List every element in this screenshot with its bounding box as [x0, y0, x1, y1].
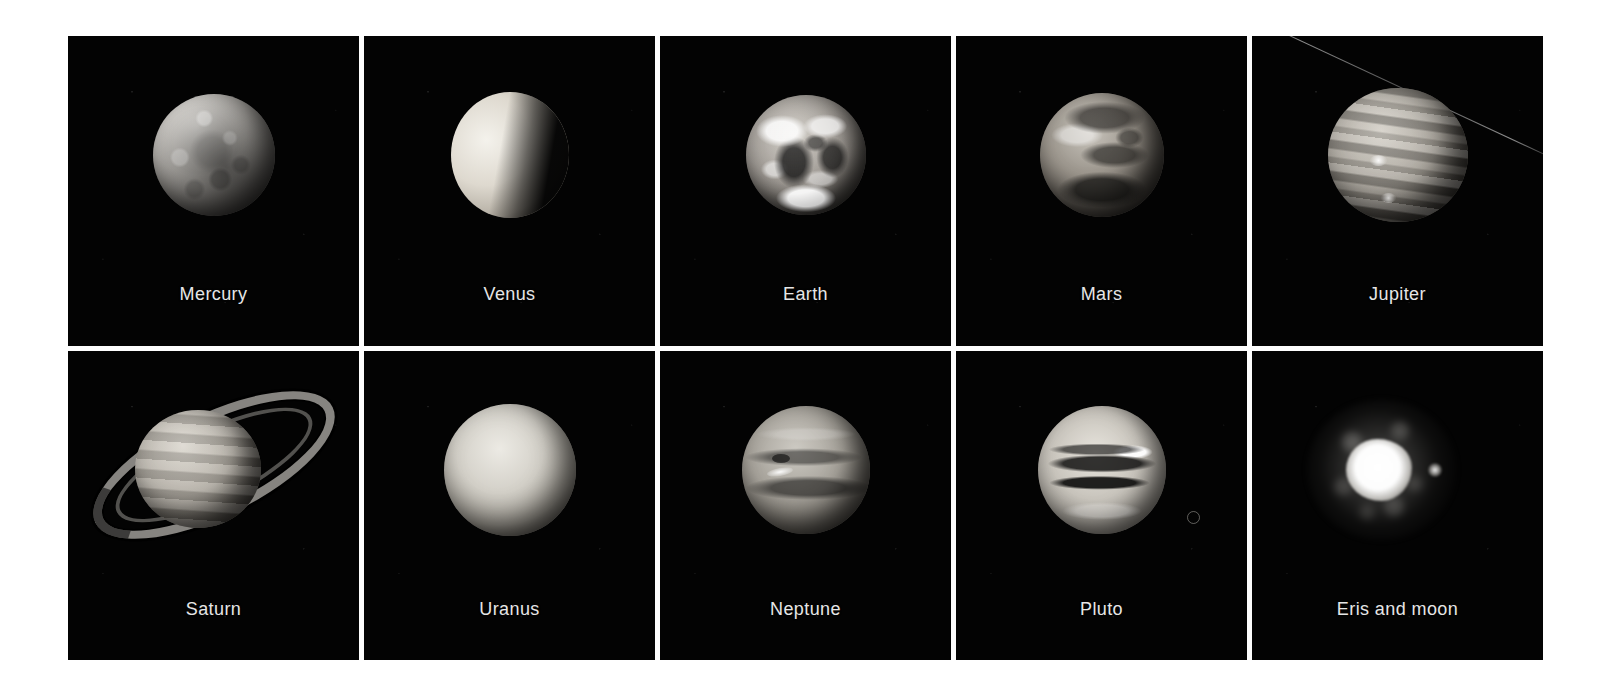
planet-image-neptune [742, 406, 870, 534]
grid-cell-eris[interactable]: Eris and moon [1252, 351, 1543, 661]
caption-neptune: Neptune [660, 599, 951, 620]
image-stage-jupiter [1252, 36, 1543, 274]
grid-cell-neptune[interactable]: Neptune [660, 351, 951, 661]
caption-jupiter: Jupiter [1252, 284, 1543, 305]
image-stage-venus [364, 36, 655, 274]
image-stage-mars [956, 36, 1247, 274]
neptune-dark-spot [772, 454, 790, 463]
planet-image-saturn [84, 360, 344, 570]
image-stage-saturn [68, 351, 359, 589]
planet-image-earth [746, 95, 866, 215]
neptune-cloud-bands [742, 406, 870, 534]
venus-terminator-shadow [451, 92, 569, 218]
grid-cell-saturn[interactable]: Saturn [68, 351, 359, 661]
grid-cell-mercury[interactable]: Mercury [68, 36, 359, 346]
jupiter-bright-spot-lower [1381, 193, 1396, 203]
planet-image-venus [451, 92, 569, 218]
caption-eris: Eris and moon [1252, 599, 1543, 620]
pluto-surface-bands [1038, 406, 1166, 534]
planet-image-eris [1303, 385, 1493, 555]
grid-cell-uranus[interactable]: Uranus [364, 351, 655, 661]
planet-image-mars [1040, 93, 1164, 217]
planet-image-pluto [1038, 406, 1166, 534]
planet-image-mercury [153, 94, 275, 216]
planet-image-jupiter [1328, 88, 1468, 222]
caption-earth: Earth [660, 284, 951, 305]
eris-bright-core [1346, 439, 1412, 501]
pluto-faint-companion-dot [1187, 511, 1200, 524]
caption-uranus: Uranus [364, 599, 655, 620]
planet-image-grid: Mercury Venus Earth Mars [68, 36, 1543, 660]
image-stage-pluto [956, 351, 1247, 589]
earth-limb-shading [746, 95, 866, 215]
jupiter-bright-spot [1370, 155, 1387, 166]
jupiter-cloud-bands [1328, 88, 1468, 222]
image-stage-eris [1252, 351, 1543, 589]
mercury-crater-texture [153, 94, 275, 216]
image-stage-neptune [660, 351, 951, 589]
mars-albedo-features [1040, 93, 1164, 217]
grid-cell-earth[interactable]: Earth [660, 36, 951, 346]
grid-cell-mars[interactable]: Mars [956, 36, 1247, 346]
grid-cell-venus[interactable]: Venus [364, 36, 655, 346]
caption-pluto: Pluto [956, 599, 1247, 620]
grid-cell-pluto[interactable]: Pluto [956, 351, 1247, 661]
image-stage-earth [660, 36, 951, 274]
caption-mars: Mars [956, 284, 1247, 305]
caption-venus: Venus [364, 284, 655, 305]
planet-image-uranus [444, 404, 576, 536]
image-stage-uranus [364, 351, 655, 589]
caption-mercury: Mercury [68, 284, 359, 305]
caption-saturn: Saturn [68, 599, 359, 620]
image-stage-mercury [68, 36, 359, 274]
grid-cell-jupiter[interactable]: Jupiter [1252, 36, 1543, 346]
